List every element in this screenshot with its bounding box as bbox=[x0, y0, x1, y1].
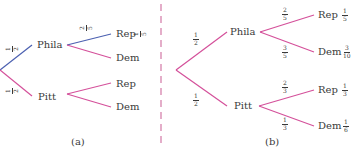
b-prob-root-phila: 12 bbox=[193, 32, 199, 46]
b-leaf-phila-dem: Dem bbox=[318, 47, 341, 57]
b-leaf-pitt-dem: Dem bbox=[318, 121, 341, 131]
b-node-pitt: Pitt bbox=[234, 101, 252, 111]
a-joint-phila-rep: 15 bbox=[133, 31, 147, 37]
a-leaf-phila-dem: Dem bbox=[116, 53, 139, 63]
b-leaf-pitt-rep: Rep bbox=[318, 85, 338, 95]
b-joint-pitt-rep: 13 bbox=[342, 83, 348, 97]
a-branch-phila-rep bbox=[67, 34, 111, 45]
b-prob-phila-dem: 35 bbox=[282, 45, 288, 59]
a-prob-phila-rep: 25 bbox=[79, 25, 93, 31]
b-node-phila: Phila bbox=[230, 27, 256, 37]
b-caption: (b) bbox=[265, 136, 279, 147]
b-branch-root-pitt bbox=[176, 70, 227, 106]
a-node-pitt: Pitt bbox=[38, 92, 56, 102]
b-joint-phila-rep: 15 bbox=[342, 8, 348, 22]
b-prob-phila-rep: 25 bbox=[282, 7, 288, 21]
b-branch-root-phila bbox=[176, 32, 227, 70]
b-prob-pitt-dem: 13 bbox=[282, 117, 288, 131]
a-leaf-pitt-dem: Dem bbox=[116, 102, 139, 112]
a-node-phila: Phila bbox=[37, 40, 63, 50]
b-joint-phila-dem: 310 bbox=[343, 45, 351, 59]
b-leaf-phila-rep: Rep bbox=[318, 10, 338, 20]
a-branch-pitt-rep bbox=[67, 83, 111, 94]
a-prob-root-pitt: 12 bbox=[5, 88, 19, 94]
b-joint-pitt-dem: 16 bbox=[343, 119, 349, 133]
a-branch-pitt-dem bbox=[67, 94, 111, 107]
a-caption: (a) bbox=[71, 136, 85, 147]
tree-lines bbox=[0, 0, 356, 150]
a-leaf-pitt-rep: Rep bbox=[116, 79, 136, 89]
b-prob-root-pitt: 12 bbox=[193, 93, 199, 107]
a-branch-phila-dem bbox=[67, 45, 111, 58]
a-prob-root-phila: 12 bbox=[5, 46, 19, 52]
b-prob-pitt-rep: 23 bbox=[282, 80, 288, 94]
